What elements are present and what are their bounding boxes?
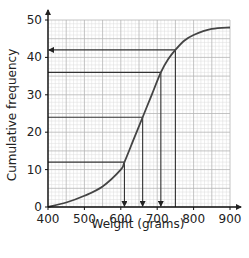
x-axis-title: Weight (grams) — [92, 217, 185, 231]
cumulative-frequency-chart: 400500600700800900 01020304050 Weight (g… — [0, 0, 249, 258]
x-tick-label: 400 — [37, 212, 60, 226]
y-tick-label: 10 — [27, 163, 42, 177]
y-tick-label: 0 — [34, 200, 42, 214]
y-tick-label: 40 — [27, 50, 42, 64]
y-axis-ticks: 01020304050 — [27, 13, 48, 214]
y-axis-title: Cumulative frequency — [5, 49, 19, 182]
grid-major — [48, 20, 230, 207]
y-tick-label: 20 — [27, 125, 42, 139]
y-tick-label: 30 — [27, 88, 42, 102]
x-tick-label: 800 — [182, 212, 205, 226]
x-tick-label: 900 — [219, 212, 242, 226]
y-tick-label: 50 — [27, 13, 42, 27]
